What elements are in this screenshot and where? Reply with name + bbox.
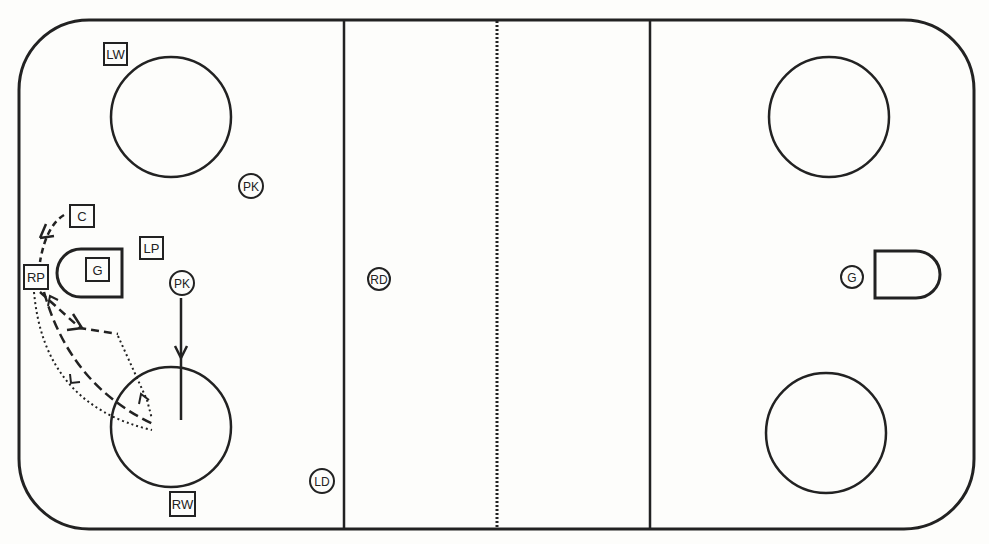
player-ld[interactable]: LD bbox=[310, 469, 334, 493]
player-rp-label: RP bbox=[27, 270, 45, 285]
player-goalie-left-label: G bbox=[92, 263, 102, 278]
faceoff-circle-left-top bbox=[111, 57, 231, 177]
faceoff-circle-right-bottom bbox=[766, 373, 886, 493]
player-rp[interactable]: RP bbox=[24, 265, 48, 289]
goal-crease-right bbox=[875, 251, 940, 298]
player-pk-mid-label: PK bbox=[174, 277, 190, 291]
player-lw-label: LW bbox=[106, 47, 125, 62]
faceoff-circle-left-bottom bbox=[111, 367, 231, 487]
arrow-rp-pass-return-icon bbox=[139, 394, 149, 404]
player-pk-top[interactable]: PK bbox=[239, 174, 263, 198]
player-rd[interactable]: RD bbox=[368, 268, 390, 290]
player-pk-top-label: PK bbox=[243, 180, 259, 194]
player-ld-label: LD bbox=[314, 475, 330, 489]
faceoff-circle-right-top bbox=[769, 57, 889, 177]
player-rw-label: RW bbox=[172, 497, 194, 512]
player-pk-mid[interactable]: PK bbox=[170, 271, 194, 295]
player-lp[interactable]: LP bbox=[140, 237, 163, 259]
player-goalie-right[interactable]: G bbox=[841, 266, 863, 288]
arrow-rp-pass-outer-icon bbox=[70, 374, 80, 383]
hockey-rink-diagram: LW C LP G RP RW PK PK RD LD G bbox=[0, 0, 989, 544]
player-goalie-right-label: G bbox=[847, 271, 856, 285]
player-rw[interactable]: RW bbox=[170, 492, 195, 516]
player-c-label: C bbox=[77, 209, 86, 224]
player-c[interactable]: C bbox=[70, 205, 94, 227]
player-lp-label: LP bbox=[144, 241, 160, 256]
player-lw[interactable]: LW bbox=[104, 43, 127, 65]
player-rd-label: RD bbox=[370, 273, 388, 287]
player-goalie-left[interactable]: G bbox=[86, 258, 109, 281]
arrow-c-to-rp-icon bbox=[40, 224, 54, 238]
